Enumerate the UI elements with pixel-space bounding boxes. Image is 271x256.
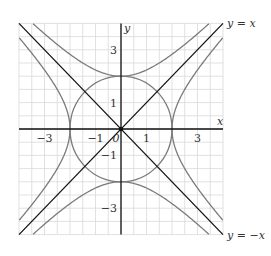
x-tick-label-origin: 0 xyxy=(113,132,120,145)
x-tick-label: −3 xyxy=(36,132,52,145)
origin-dot xyxy=(119,127,123,131)
x-axis-label: x xyxy=(217,115,224,128)
y-tick-label: −1 xyxy=(101,149,117,162)
y-axis-label: y xyxy=(123,22,131,35)
label-y-eq-neg-x: y = −x xyxy=(226,229,266,242)
y-tick-label: 3 xyxy=(110,44,117,57)
y-tick-label: 1 xyxy=(110,97,117,110)
x-tick-label: 1 xyxy=(143,132,150,145)
label-y-eq-x: y = x xyxy=(226,17,256,30)
coordinate-plot: −3−101331−1−3xyy = xy = −x xyxy=(0,0,271,256)
y-tick-label: −3 xyxy=(101,202,117,215)
x-tick-label: −1 xyxy=(87,132,103,145)
x-tick-label: 3 xyxy=(194,132,201,145)
